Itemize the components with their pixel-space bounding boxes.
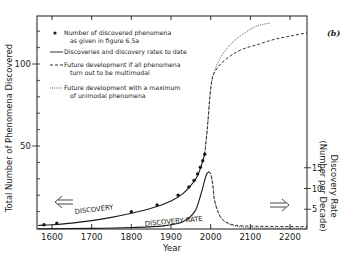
legend-label: Future development with a maximum (64, 84, 180, 92)
x-tick-label: 2100 (239, 232, 261, 242)
legend-label: Discoveries and discovery rates to date (64, 48, 187, 56)
legend-label: as given in figure 6.5a (70, 37, 139, 45)
legend-label: Number of discovered phenomena (64, 29, 172, 37)
x-tick-label: 1700 (81, 232, 103, 242)
y-left-tick-label: 100 (15, 59, 31, 69)
y-axis-right-title-line2: (Number per Decade) (318, 140, 328, 231)
x-tick-label: 1800 (120, 232, 142, 242)
x-axis-title: Year (162, 243, 182, 253)
legend-label: Future development if all phenomena (64, 61, 181, 69)
legend-label: turn out to be multimodal (70, 69, 150, 76)
x-tick-label: 1600 (41, 232, 63, 242)
x-tick-label: 2200 (279, 232, 301, 242)
discovery-chart: 16001700180019002000210022005010051015 Y… (0, 0, 351, 259)
legend-item-solid: Discoveries and discovery rates to date (50, 48, 187, 56)
y-axis-left-title: Total Number of Phenomena Discovered (4, 44, 14, 213)
legend-label: of unimodal phenomena (70, 92, 146, 100)
x-tick-label: 1900 (160, 232, 182, 242)
panel-label: (b) (327, 28, 340, 38)
dot-marker-icon (53, 31, 56, 34)
x-tick-label: 2000 (200, 232, 222, 242)
y-axis-right-title-line1: Discovery Rate (329, 154, 339, 217)
y-left-tick-label: 50 (20, 141, 31, 151)
y-right-tick-label: 5 (312, 205, 317, 214)
